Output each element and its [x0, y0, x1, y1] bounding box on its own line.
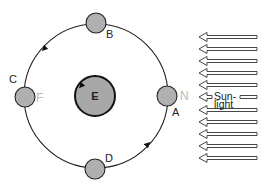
sunlight-arrow-icon [199, 118, 257, 127]
moon-a: A N [157, 86, 189, 118]
orbit-arrow-icon [140, 144, 148, 152]
earth: E [75, 76, 115, 116]
moon-c-annotation: F [36, 91, 43, 105]
sunlight-arrow-icon [199, 33, 257, 42]
sunlight-arrow-icon [199, 45, 257, 54]
moon-d: D [85, 152, 113, 179]
moon-b-label: B [106, 28, 113, 40]
sunlight-arrowhead-icon [199, 93, 212, 102]
sunlight-arrow-icon [199, 81, 257, 90]
sunlight-label-line2: light [214, 98, 233, 110]
moon-d-label: D [105, 152, 113, 164]
moon-b: B [86, 13, 113, 40]
moon-c-label: C [9, 73, 17, 85]
moon-a-annotation: N [180, 89, 189, 103]
sunlight-shaft-stub [240, 96, 257, 99]
moon-phase-diagram: E A N B C F D Sun- light [0, 0, 267, 185]
sunlight-arrow-icon [199, 154, 257, 163]
earth-label: E [91, 90, 98, 102]
sunlight-arrow-icon [199, 130, 257, 139]
moon-a-label: A [172, 106, 180, 118]
sunlight-arrow-icon [199, 142, 257, 151]
sunlight-arrow-icon [199, 57, 257, 66]
sunlight-arrow-icon [199, 69, 257, 78]
